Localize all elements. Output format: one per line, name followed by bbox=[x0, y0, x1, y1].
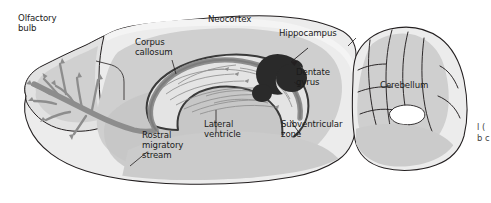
label-subventricular-zone: Subventricular zone bbox=[281, 119, 357, 139]
label-cerebellum: Cerebellum bbox=[380, 80, 452, 90]
label-dentate-gyrus: Dentate gyrus bbox=[296, 67, 352, 87]
figure-canvas: Olfactory bulb Neocortex Corpus callosum… bbox=[0, 0, 491, 203]
label-lateral-ventricle: Lateral ventricle bbox=[204, 119, 264, 139]
label-olfactory-bulb: Olfactory bulb bbox=[18, 13, 88, 33]
clipped-caption-fragment: l ( b c bbox=[477, 122, 491, 144]
label-rostral-migratory-stream: Rostral migratory stream bbox=[142, 130, 204, 161]
label-corpus-callosum: Corpus callosum bbox=[135, 37, 199, 57]
label-hippocampus: Hippocampus bbox=[279, 28, 363, 38]
label-neocortex: Neocortex bbox=[208, 14, 280, 24]
